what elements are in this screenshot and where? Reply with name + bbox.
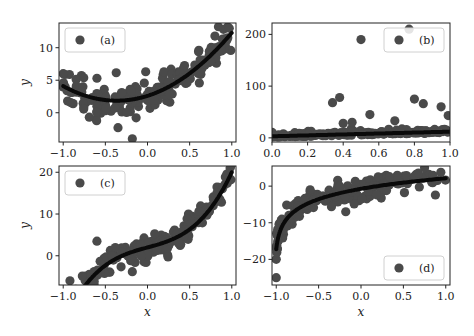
x-tick-label: 1.0 xyxy=(223,147,241,160)
legend-marker-icon xyxy=(75,178,84,187)
x-tick-label: 0.0 xyxy=(263,147,281,160)
y-tick-label: 0 xyxy=(46,250,53,263)
y-tick-label: −20 xyxy=(243,253,266,266)
x-tick-label: −1.0 xyxy=(50,290,77,303)
x-tick-label: 0.8 xyxy=(406,147,424,160)
x-tick-label: 0.0 xyxy=(352,290,370,303)
legend: (a) xyxy=(65,28,125,52)
x-tick-label: 0.2 xyxy=(299,147,317,160)
y-tick-label: 0 xyxy=(46,107,53,120)
x-tick-label: 1.0 xyxy=(437,290,455,303)
legend-marker-icon xyxy=(394,263,403,272)
x-tick-label: −1.0 xyxy=(263,290,290,303)
legend: (c) xyxy=(65,171,125,195)
legend-label: (a) xyxy=(100,34,115,47)
x-tick-label: −0.5 xyxy=(305,290,332,303)
x-tick-label: 0.0 xyxy=(139,147,157,160)
y-tick-label: 0 xyxy=(259,132,266,145)
legend-marker-icon xyxy=(75,35,84,44)
x-tick-label: 1.0 xyxy=(223,290,241,303)
y-tick-label: 0 xyxy=(259,180,266,193)
x-axis-label: x xyxy=(358,305,365,319)
y-tick-label: −10 xyxy=(243,217,266,230)
legend-marker-icon xyxy=(394,35,403,44)
legend: (d) xyxy=(384,256,444,280)
legend: (b) xyxy=(384,28,444,52)
x-tick-label: 0.0 xyxy=(139,290,157,303)
y-axis-label: y xyxy=(18,79,32,87)
legend-label: (b) xyxy=(419,34,435,47)
x-tick-label: −0.5 xyxy=(92,290,119,303)
y-tick-label: 20 xyxy=(39,166,53,179)
y-tick-label: 100 xyxy=(245,80,266,93)
x-tick-label: 0.5 xyxy=(181,290,199,303)
x-tick-label: −1.0 xyxy=(50,147,77,160)
x-tick-label: 0.4 xyxy=(334,147,352,160)
y-tick-label: 10 xyxy=(39,42,53,55)
x-tick-label: −0.5 xyxy=(92,147,119,160)
subplot-d: −1.0−0.50.00.51.0−20−100x(d) xyxy=(243,163,455,319)
figure: −1.0−0.50.00.51.00510y(a) 0.00.20.40.60.… xyxy=(0,0,474,336)
legend-label: (d) xyxy=(419,262,435,275)
y-tick-label: 200 xyxy=(245,28,266,41)
x-tick-label: 0.5 xyxy=(395,290,413,303)
legend-label: (c) xyxy=(100,177,115,190)
subplot-c: −1.0−0.50.00.51.001020yx(c) xyxy=(18,160,241,336)
subplot-b: 0.00.20.40.60.81.00100200(b) xyxy=(245,23,459,160)
y-tick-label: 10 xyxy=(39,208,53,221)
x-tick-label: 1.0 xyxy=(441,147,459,160)
x-tick-label: 0.6 xyxy=(370,147,388,160)
x-tick-label: 0.5 xyxy=(181,147,199,160)
x-axis-label: x xyxy=(144,305,151,319)
y-axis-label: y xyxy=(18,222,32,230)
subplot-a: −1.0−0.50.00.51.00510y(a) xyxy=(18,12,241,160)
y-tick-label: 5 xyxy=(46,74,53,87)
